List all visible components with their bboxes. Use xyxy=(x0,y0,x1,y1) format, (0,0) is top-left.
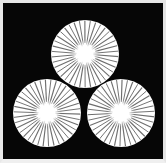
bottom-right-disc xyxy=(86,78,156,148)
bottom-right-disc-core xyxy=(107,99,135,127)
crest-plate xyxy=(3,3,163,159)
crest-image xyxy=(0,0,166,163)
top-disc-core xyxy=(71,40,99,68)
crest-drawing xyxy=(3,3,163,159)
spoke xyxy=(121,78,122,102)
bottom-left-disc xyxy=(12,78,82,148)
bottom-left-disc-core xyxy=(33,99,61,127)
top-disc xyxy=(50,19,120,89)
